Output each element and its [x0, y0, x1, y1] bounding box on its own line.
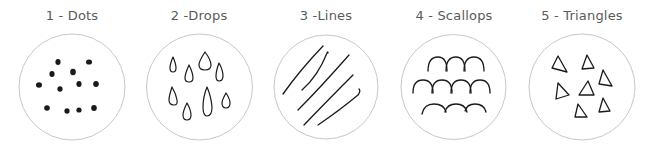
circle-lines — [274, 35, 378, 139]
circle-scallops — [401, 35, 506, 140]
pattern-illustrations — [0, 0, 645, 156]
circle-triangles — [529, 34, 635, 140]
circle-dots — [19, 34, 125, 140]
triangles-pattern-icon — [552, 55, 612, 117]
dots-pattern-icon — [36, 59, 99, 114]
scallops-pattern-icon — [413, 57, 490, 114]
drops-pattern-icon — [169, 52, 230, 120]
circle-drops — [147, 34, 253, 140]
lines-pattern-icon — [283, 46, 360, 125]
